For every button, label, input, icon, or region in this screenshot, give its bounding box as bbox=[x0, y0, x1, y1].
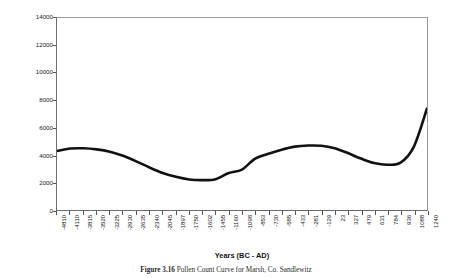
x-axis-tick-mark bbox=[362, 211, 363, 215]
x-axis-tick-label: -129 bbox=[325, 215, 333, 249]
x-axis-tick-label: -281 bbox=[312, 215, 320, 249]
figure-caption: Figure 3.16 Pollen Count Curve for Marsh… bbox=[20, 266, 432, 275]
x-axis-tick-mark bbox=[202, 211, 203, 215]
x-axis-tick-mark bbox=[282, 211, 283, 215]
x-axis-tick-mark bbox=[322, 211, 323, 215]
x-axis-tick-mark bbox=[176, 211, 177, 215]
pollen-count-curve bbox=[57, 18, 427, 210]
x-axis-tick-mark bbox=[255, 211, 256, 215]
x-axis-tick-label: -585 bbox=[285, 215, 293, 249]
figure-caption-text: Pollen Count Curve for Marsh, Co. Sandle… bbox=[177, 266, 312, 274]
x-axis-tick-label: -2635 bbox=[139, 215, 147, 249]
x-axis-tick-label: -3225 bbox=[113, 215, 121, 249]
x-axis-tick-mark bbox=[83, 211, 84, 215]
x-axis-tick-mark bbox=[269, 211, 270, 215]
x-axis-tick-label: -1750 bbox=[192, 215, 200, 249]
x-axis-tick-mark bbox=[242, 211, 243, 215]
x-axis-tick-mark bbox=[96, 211, 97, 215]
x-axis-tick-label: -730 bbox=[272, 215, 280, 249]
x-axis-tick-label: 1088 bbox=[418, 215, 426, 249]
x-axis-tick-mark bbox=[308, 211, 309, 215]
x-axis-tick-label: 631 bbox=[378, 215, 386, 249]
x-axis-tick-label: 23 bbox=[339, 215, 347, 249]
x-axis-tick-label: 1240 bbox=[432, 215, 440, 249]
x-axis-tick-mark bbox=[215, 211, 216, 215]
x-axis-tick-label: -2930 bbox=[126, 215, 134, 249]
y-axis-tick-label: 12000 bbox=[7, 42, 53, 48]
x-axis-tick-label: -4810 bbox=[60, 215, 68, 249]
x-axis-tick-mark bbox=[348, 211, 349, 215]
x-axis-tick-mark bbox=[109, 211, 110, 215]
x-axis-tick-mark bbox=[401, 211, 402, 215]
y-axis-tick-labels: 02000400060008000100001200014000 bbox=[6, 0, 53, 278]
x-axis-tick-label: -2045 bbox=[166, 215, 174, 249]
x-axis-tick-label: 936 bbox=[405, 215, 413, 249]
x-axis-tick-label: -3815 bbox=[86, 215, 94, 249]
x-axis-tick-label: 479 bbox=[365, 215, 373, 249]
x-axis-title: Years (BC - AD) bbox=[56, 251, 428, 260]
x-axis-tick-mark bbox=[189, 211, 190, 215]
x-axis-tick-mark bbox=[295, 211, 296, 215]
x-axis-tick-label: -1098 bbox=[246, 215, 254, 249]
x-axis-tick-mark bbox=[149, 211, 150, 215]
y-axis-tick-label: 0 bbox=[7, 208, 53, 214]
x-axis-tick-mark bbox=[122, 211, 123, 215]
x-axis-tick-labels: -4810-4110-3815-3520-3225-2930-2635-2340… bbox=[56, 216, 428, 250]
y-axis-tick-label: 6000 bbox=[7, 125, 53, 131]
curve-path bbox=[57, 109, 427, 181]
x-axis-tick-mark bbox=[335, 211, 336, 215]
x-axis-tick-mark bbox=[229, 211, 230, 215]
x-axis-tick-label: -1455 bbox=[219, 215, 227, 249]
x-axis-tick-label: -4110 bbox=[73, 215, 81, 249]
y-axis-tick-label: 10000 bbox=[7, 69, 53, 75]
y-axis-tick-label: 8000 bbox=[7, 97, 53, 103]
x-axis-tick-label: -433 bbox=[299, 215, 307, 249]
x-axis-tick-label: -3520 bbox=[99, 215, 107, 249]
plot-area bbox=[56, 17, 428, 211]
y-axis-tick-label: 4000 bbox=[7, 152, 53, 158]
x-axis-tick-mark bbox=[162, 211, 163, 215]
x-axis-tick-label: -1602 bbox=[206, 215, 214, 249]
x-axis-tick-mark bbox=[56, 211, 57, 215]
y-axis-tick-label: 2000 bbox=[7, 180, 53, 186]
x-axis-tick-label: 784 bbox=[392, 215, 400, 249]
x-axis-tick-mark bbox=[415, 211, 416, 215]
y-axis-tick-label: 14000 bbox=[7, 14, 53, 20]
x-axis-tick-mark bbox=[428, 211, 429, 215]
x-axis-tick-label: -2340 bbox=[153, 215, 161, 249]
x-axis-tick-mark bbox=[136, 211, 137, 215]
x-axis-tick-label: -1160 bbox=[232, 215, 240, 249]
x-axis-tick-label: -1897 bbox=[179, 215, 187, 249]
x-axis-tick-mark bbox=[69, 211, 70, 215]
x-axis-tick-label: -853 bbox=[259, 215, 267, 249]
x-axis-tick-mark bbox=[375, 211, 376, 215]
x-axis-tick-mark bbox=[388, 211, 389, 215]
figure-container: Arboreal Pollen Count 020004000600080001… bbox=[0, 0, 452, 278]
figure-caption-label: Figure 3.16 bbox=[140, 266, 175, 274]
x-axis-tick-label: 327 bbox=[352, 215, 360, 249]
